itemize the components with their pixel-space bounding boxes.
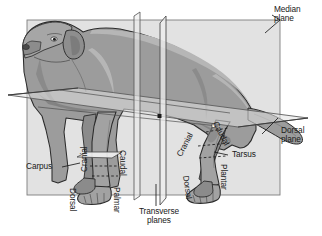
label-forelimb-caudal: Caudal <box>118 150 127 176</box>
diagram-illustration <box>0 0 322 236</box>
figure-canvas: Median plane Dorsal plane Transverse pla… <box>0 0 322 236</box>
label-hindlimb-dorsal: Dorsal <box>181 175 193 199</box>
label-dorsal-plane: Dorsal plane <box>281 126 304 144</box>
label-tarsus: Tarsus <box>232 150 256 159</box>
label-forelimb-cranial: Cranial <box>80 146 89 172</box>
label-forelimb-dorsal: Dorsal <box>68 188 77 211</box>
label-forelimb-palmar: Palmar <box>112 187 121 213</box>
label-median-plane: Median plane <box>274 5 301 23</box>
label-transverse-planes: Transverse planes <box>132 207 186 225</box>
label-median-plane-line2: plane <box>274 14 301 23</box>
label-carpus: Carpus <box>26 162 52 171</box>
transverse-plane-caudal-shape <box>160 16 166 205</box>
label-transverse-planes-line2: planes <box>132 216 186 225</box>
transverse-plane-cranial-shape <box>134 12 140 200</box>
label-hindlimb-plantar: Plantar <box>219 164 228 190</box>
label-dorsal-plane-line2: plane <box>281 135 304 144</box>
